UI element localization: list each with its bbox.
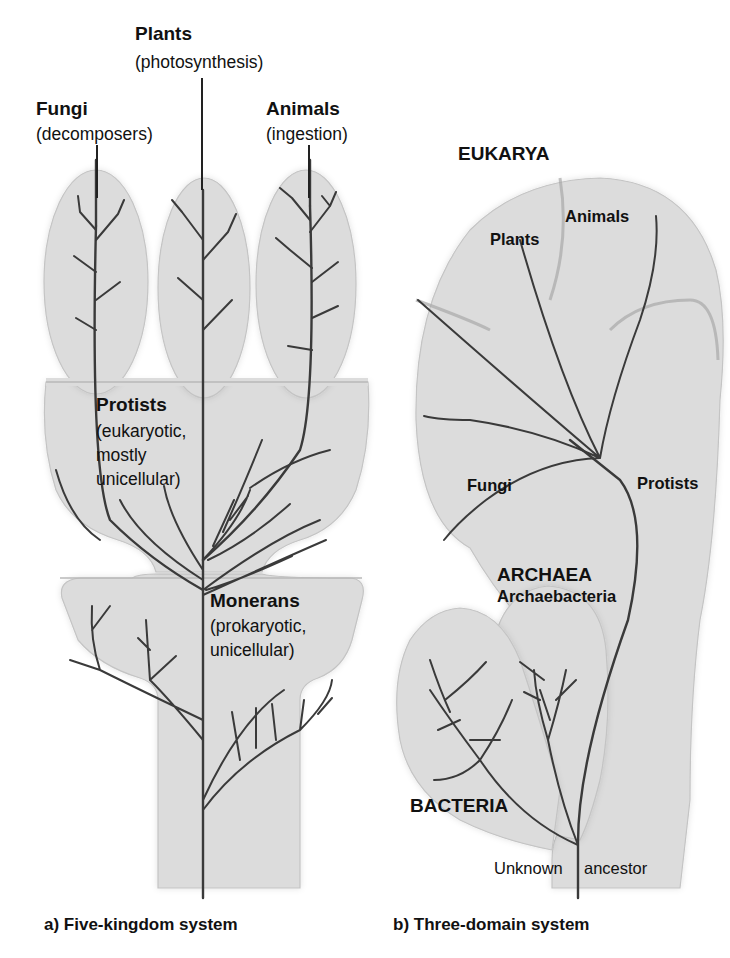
caption-a: a) Five-kingdom system (44, 915, 238, 934)
caption-b: b) Three-domain system (393, 915, 590, 934)
protists-note-2: mostly (96, 445, 147, 465)
plants-note: (photosynthesis) (135, 52, 263, 72)
five-kingdom-tree (44, 160, 369, 898)
monerans-note-1: (prokaryotic, (210, 616, 306, 636)
root-label-right: ancestor (584, 859, 648, 877)
animals-group-label: Animals (565, 207, 629, 225)
archaea-label: ARCHAEA (497, 564, 592, 585)
protists-label: Protists (96, 394, 167, 415)
plants-label: Plants (135, 23, 192, 44)
bacteria-label: BACTERIA (410, 795, 508, 816)
monerans-note-2: unicellular) (210, 640, 295, 660)
animals-label: Animals (266, 98, 340, 119)
protists-note-3: unicellular) (96, 469, 181, 489)
eukarya-label: EUKARYA (458, 143, 550, 164)
diagram-canvas: Plants (photosynthesis) Fungi (decompose… (0, 0, 730, 958)
fungi-label: Fungi (36, 98, 88, 119)
tree-of-life-figure: Plants (photosynthesis) Fungi (decompose… (0, 0, 730, 958)
fungi-note: (decomposers) (36, 124, 153, 144)
monerans-label: Monerans (210, 590, 300, 611)
root-label-left: Unknown (494, 859, 563, 877)
animals-note: (ingestion) (266, 124, 348, 144)
plants-group-label: Plants (490, 230, 540, 248)
protists-group-label: Protists (637, 474, 698, 492)
animals-lobe (256, 170, 356, 398)
three-domain-tree (397, 178, 724, 898)
protists-note-1: (eukaryotic, (96, 421, 186, 441)
archaebacteria-label: Archaebacteria (497, 587, 617, 605)
fungi-group-label: Fungi (467, 476, 512, 494)
